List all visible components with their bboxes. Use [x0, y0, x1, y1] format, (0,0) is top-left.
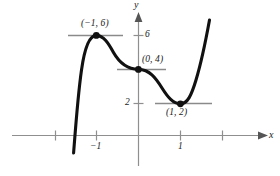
y-axis [134, 12, 144, 166]
y-axis-label: y [134, 0, 138, 10]
label-local-minimum: (1, 2) [166, 108, 187, 118]
x-tick-label--1: −1 [90, 142, 101, 152]
x-axis-arrowhead [258, 132, 268, 140]
x-axis-label: x [269, 130, 273, 140]
graph-canvas [0, 0, 280, 176]
point-local-maximum [93, 32, 100, 39]
graph-figure: (−1, 6) (0, 4) (1, 2) 6 2 −1 1 y x [0, 0, 280, 176]
function-curve [74, 20, 210, 153]
label-inflection-point: (0, 4) [142, 55, 163, 65]
y-axis-arrowhead [135, 12, 143, 22]
point-inflection [135, 66, 142, 73]
x-axis [12, 131, 268, 141]
y-tick-label-2: 2 [125, 98, 130, 108]
x-tick-label-1: 1 [178, 142, 183, 152]
y-tick-label-6: 6 [145, 30, 150, 40]
label-local-maximum: (−1, 6) [81, 19, 109, 29]
